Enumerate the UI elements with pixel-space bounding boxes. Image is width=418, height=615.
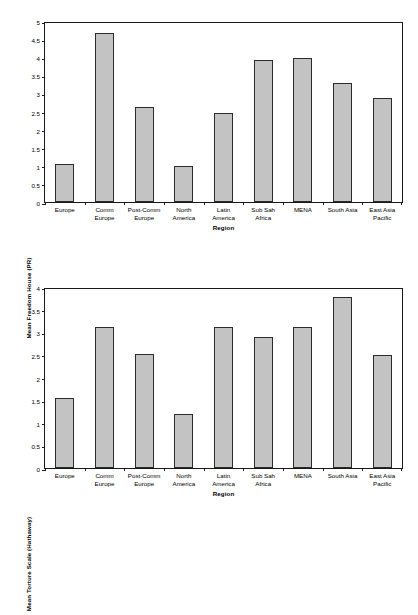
bar[interactable] [55, 164, 74, 202]
x-axis-tick-label: Post-Comm Europe [124, 472, 164, 489]
bar-slot [204, 23, 244, 202]
x-axis-tick-mark [164, 468, 165, 471]
x-axis-tick-mark [204, 202, 205, 205]
x-axis-tick-mark [204, 468, 205, 471]
y-axis-tick-label: 3.5 [4, 72, 40, 81]
x-axis-tick-mark [243, 202, 244, 205]
y-axis-tick-mark [42, 185, 45, 186]
y-axis-tick-label: 2 [4, 127, 40, 136]
chart-torture-scale: Mean Torture Scale (Hathaway) EuropeComm… [0, 266, 418, 531]
y-axis-tick-mark [42, 379, 45, 380]
x-axis-tick-label: Sub Sah Africa [243, 472, 283, 489]
y-axis-tick-label: 0.5 [4, 442, 40, 451]
bar-slot [85, 289, 125, 468]
bar-slot [45, 289, 85, 468]
x-axis-tick-label: Europe [45, 472, 85, 489]
y-axis-tick-mark [42, 334, 45, 335]
x-axis-title: Region [45, 224, 402, 231]
x-axis-tick-label: North America [164, 472, 204, 489]
bar-series [45, 23, 402, 202]
x-axis-title: Region [45, 490, 402, 497]
bar-slot [204, 289, 244, 468]
bar[interactable] [95, 33, 114, 202]
bar[interactable] [214, 113, 233, 202]
y-axis-tick-mark [42, 131, 45, 132]
x-axis-labels: EuropeComm EuropePost-Comm EuropeNorth A… [45, 472, 402, 489]
y-axis-tick-label: 0 [4, 465, 40, 474]
bar[interactable] [95, 327, 114, 468]
bar[interactable] [373, 98, 392, 202]
y-axis-tick-label: 1 [4, 420, 40, 429]
x-axis-tick-mark [323, 468, 324, 471]
x-axis-tick-mark [85, 468, 86, 471]
bar[interactable] [293, 327, 312, 468]
bar-slot [124, 23, 164, 202]
bar[interactable] [214, 327, 233, 468]
bar[interactable] [135, 107, 154, 202]
chart-freedom-house: Mean Freedom House (PR) EuropeComm Europ… [0, 0, 418, 266]
x-axis-tick-label: Latin America [204, 206, 244, 223]
y-axis-tick-label: 3 [4, 90, 40, 99]
bar-slot [283, 23, 323, 202]
bar[interactable] [174, 414, 193, 468]
x-axis-tick-label: East Asia Pacific [362, 472, 402, 489]
bar[interactable] [254, 60, 273, 202]
x-axis-tick-mark [45, 202, 46, 205]
y-axis-tick-mark [42, 41, 45, 42]
x-axis-tick-mark [124, 468, 125, 471]
y-axis-tick-label: 3 [4, 329, 40, 338]
y-axis-tick-mark [42, 167, 45, 168]
y-axis-tick-label: 0 [4, 199, 40, 208]
bar[interactable] [254, 337, 273, 468]
bar-slot [362, 23, 402, 202]
y-axis-tick-label: 5 [4, 18, 40, 27]
x-axis-tick-label: South Asia [323, 206, 363, 223]
y-axis-tick-mark [42, 447, 45, 448]
x-axis-tick-label: North America [164, 206, 204, 223]
x-axis-tick-label: Latin America [204, 472, 244, 489]
x-axis-tick-label: Sub Sah Africa [243, 206, 283, 223]
x-axis-tick-mark [164, 202, 165, 205]
y-axis-tick-mark [42, 402, 45, 403]
bar[interactable] [174, 166, 193, 202]
bar[interactable] [55, 398, 74, 468]
bar-series [45, 289, 402, 468]
bar[interactable] [293, 58, 312, 202]
bar[interactable] [135, 354, 154, 468]
y-axis-tick-mark [42, 356, 45, 357]
bar-slot [323, 289, 363, 468]
x-axis-tick-mark [362, 468, 363, 471]
y-axis-tick-mark [42, 59, 45, 60]
y-axis-tick-label: 4.5 [4, 36, 40, 45]
y-axis-tick-label: 2.5 [4, 109, 40, 118]
y-axis-tick-label: 1.5 [4, 145, 40, 154]
x-axis-tick-label: MENA [283, 472, 323, 489]
bar-slot [85, 23, 125, 202]
x-axis-tick-label: Europe [45, 206, 85, 223]
x-axis-tick-label: MENA [283, 206, 323, 223]
y-axis-tick-mark [42, 311, 45, 312]
y-axis-tick-label: 4 [4, 54, 40, 63]
y-axis-tick-mark [42, 95, 45, 96]
x-axis-tick-label: Comm Europe [85, 472, 125, 489]
x-axis-labels: EuropeComm EuropePost-Comm EuropeNorth A… [45, 206, 402, 223]
plot-area: EuropeComm EuropePost-Comm EuropeNorth A… [44, 288, 403, 469]
y-axis-tick-mark [42, 77, 45, 78]
bar[interactable] [333, 297, 352, 468]
x-axis-tick-label: South Asia [323, 472, 363, 489]
x-axis-tick-label: Comm Europe [85, 206, 125, 223]
y-axis-title: Mean Torture Scale (Hathaway) [22, 469, 36, 615]
x-axis-tick-mark [362, 202, 363, 205]
bar[interactable] [333, 83, 352, 202]
y-axis-tick-mark [42, 113, 45, 114]
y-axis-tick-mark [42, 470, 45, 471]
x-axis-tick-mark [323, 202, 324, 205]
y-axis-tick-mark [42, 23, 45, 24]
bar-slot [283, 289, 323, 468]
y-axis-tick-label: 1 [4, 163, 40, 172]
y-axis-tick-label: 2.5 [4, 352, 40, 361]
y-axis-tick-label: 2 [4, 375, 40, 384]
y-axis-tick-label: 0.5 [4, 181, 40, 190]
bar[interactable] [373, 355, 392, 468]
y-axis-tick-label: 4 [4, 284, 40, 293]
